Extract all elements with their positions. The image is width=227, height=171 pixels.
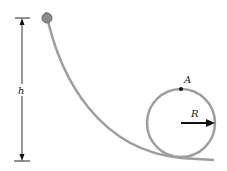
track-curve: [46, 12, 214, 160]
point-a-label: A: [183, 74, 191, 85]
arrow-up-icon: [20, 18, 25, 25]
arrow-down-icon: [20, 154, 25, 161]
radius-label: R: [190, 108, 199, 119]
loop-diagram: h A R: [0, 0, 227, 171]
ball: [42, 13, 52, 23]
point-a-marker: [179, 87, 183, 91]
height-label: h: [18, 85, 24, 96]
height-dimension: h: [14, 18, 30, 161]
